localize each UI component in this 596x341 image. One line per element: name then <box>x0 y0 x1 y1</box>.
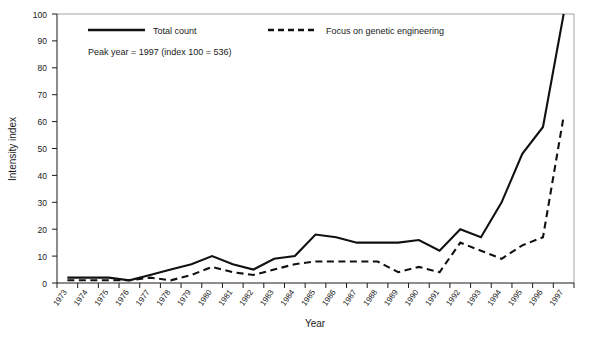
y-tick-label: 20 <box>38 225 48 235</box>
y-tick-label: 30 <box>38 198 48 208</box>
legend-label-total-count: Total count <box>153 26 197 36</box>
y-tick-label: 100 <box>33 10 47 20</box>
y-tick-label: 50 <box>38 144 48 154</box>
peak-year-annotation: Peak year = 1997 (index 100 = 536) <box>88 47 232 57</box>
y-axis-title: Intensity index <box>7 117 18 181</box>
chart-figure: 100 90 80 70 60 50 <box>0 0 596 341</box>
legend-label-focus-genetic-engineering: Focus on genetic engineering <box>326 26 444 36</box>
y-tick-label: 90 <box>38 36 48 46</box>
y-tick-label: 70 <box>38 90 48 100</box>
line-chart: 100 90 80 70 60 50 <box>0 0 596 341</box>
y-tick-label: 60 <box>38 117 48 127</box>
y-tick-label: 10 <box>38 252 48 262</box>
y-tick-label: 0 <box>42 279 47 289</box>
y-tick-label: 80 <box>38 63 48 73</box>
x-axis-title: Year <box>305 318 326 329</box>
y-tick-label: 40 <box>38 171 48 181</box>
